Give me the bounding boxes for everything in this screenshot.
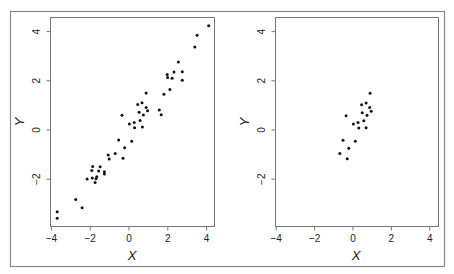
data-point [370,110,373,113]
data-point [145,106,148,109]
y-tick-label: 0 [256,127,267,133]
x-tick-label: −2 [84,233,96,244]
data-point [141,126,144,129]
data-point [99,165,102,168]
x-tick-label: −4 [270,233,282,244]
data-point [56,210,59,213]
data-point [166,73,169,76]
data-point [173,70,176,73]
data-point [90,169,93,172]
x-tick-label: −2 [309,233,321,244]
data-point [86,178,89,181]
data-point [108,158,111,161]
data-point [177,61,180,64]
data-point [81,206,84,209]
data-point [133,126,136,129]
data-point [56,217,59,220]
data-point [181,79,184,82]
data-point [369,92,372,95]
x-tick-label: 0 [126,233,132,244]
data-point [365,101,368,104]
x-axis-title: X [351,248,362,263]
data-point [142,114,145,117]
data-point [171,77,174,80]
x-tick-label: 0 [350,233,356,244]
data-point [345,114,348,117]
figure-border [11,12,445,267]
data-point [138,111,141,114]
data-point [121,114,124,117]
data-point [207,24,210,27]
data-point [91,177,94,180]
data-point [162,93,165,96]
y-tick-label: 2 [256,78,267,84]
data-point [74,198,77,201]
data-point [354,140,357,143]
figure: −2024 −4−2024 X Y −2024 −4−2024 X Y [0,0,454,274]
data-point [141,101,144,104]
data-point [97,170,100,173]
data-point [352,123,355,126]
data-point [166,76,169,79]
data-point [362,119,365,122]
x-axis-title: X [127,248,138,263]
x-tick-label: 4 [204,233,210,244]
data-point [360,103,363,106]
data-point [368,106,371,109]
data-point [122,157,125,160]
data-point [94,181,97,184]
data-point [342,139,345,142]
y-tick-label: 0 [31,127,42,133]
data-point [158,109,161,112]
x-tick-label: 2 [165,233,171,244]
y-tick-label: 4 [31,28,42,34]
data-point [145,91,148,94]
data-point [338,152,341,155]
data-point [357,121,360,124]
x-tick-label: 2 [389,233,395,244]
data-point [123,146,126,149]
data-point [136,103,139,106]
data-point [196,34,199,37]
y-axis-title: Y [12,116,27,126]
x-tick-label: 4 [427,233,433,244]
data-point [365,126,368,129]
data-point [346,157,349,160]
data-point [160,113,163,116]
data-point [130,140,133,143]
data-point [347,147,350,150]
data-point [146,109,149,112]
data-point [128,123,131,126]
data-point [114,152,117,155]
data-point [103,173,106,176]
data-point [139,119,142,122]
data-point [168,88,171,91]
data-point [91,165,94,168]
x-tick-label: −4 [46,233,58,244]
data-point [133,121,136,124]
y-tick-label: −2 [256,173,267,185]
y-tick-label: 4 [256,28,267,34]
data-point [107,154,110,157]
y-tick-label: −2 [31,173,42,185]
data-point [361,111,364,114]
data-point [95,177,98,180]
data-point [193,46,196,49]
y-tick-label: 2 [31,78,42,84]
data-point [357,127,360,130]
data-point [366,114,369,117]
y-axis-title: Y [237,116,252,126]
data-point [181,70,184,73]
data-point [117,139,120,142]
